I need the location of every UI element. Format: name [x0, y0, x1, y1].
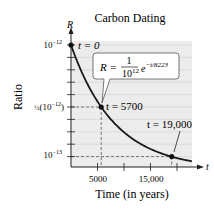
carbon-dating-chart: R = 1 1012 e−t/8223 t = 0 t = 5700 t = 1… [0, 0, 214, 210]
data-point [68, 42, 73, 47]
data-point [169, 154, 174, 159]
annotation-t0: t = 0 [78, 39, 100, 51]
formula-lhs: R = [99, 61, 117, 73]
chart-title: Carbon Dating [95, 11, 166, 25]
x-axis-var: t [206, 161, 209, 172]
y-tick-label-1e-12: 10−12 [44, 39, 62, 50]
y-axis-var: R [66, 19, 73, 30]
x-axis-arrow-icon [197, 165, 204, 170]
x-tick-label-15000: 15,000 [139, 174, 164, 184]
annotation-t19000: t = 19,000 [147, 118, 193, 130]
y-tick-label-half: ½(10−12) [34, 101, 64, 112]
x-axis-label: Time (in years) [95, 187, 169, 201]
data-point [99, 104, 104, 109]
y-axis-label: Ratio [11, 84, 25, 110]
formula-numerator: 1 [127, 55, 132, 66]
y-tick-label-1e-13: 10−13 [44, 149, 62, 160]
x-tick-label-5000: 5000 [89, 174, 108, 184]
annotation-t5700: t = 5700 [106, 100, 143, 112]
